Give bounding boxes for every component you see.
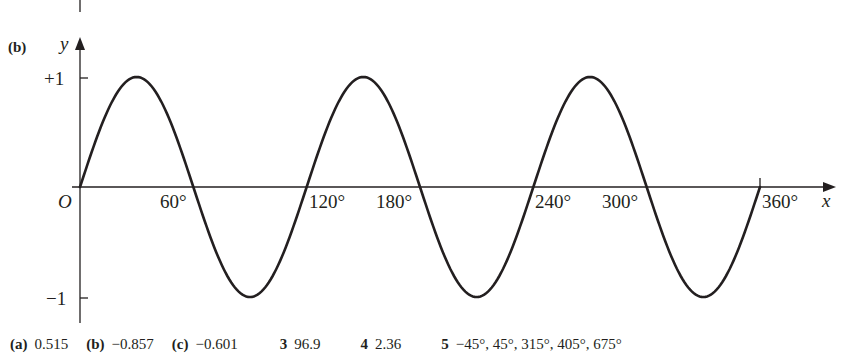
origin-label: O [58, 191, 72, 212]
answer-item: 4 2.36 [360, 336, 401, 353]
x-tick-label-300: 300° [602, 191, 638, 212]
x-tick-label-120: 120° [309, 191, 345, 212]
y-axis-label: y [58, 33, 69, 54]
answer-number: (b) [86, 336, 104, 353]
answer-number: 3 [280, 336, 288, 353]
y-tick-label-plus-1: +1 [44, 68, 64, 89]
y-tick-label-minus-1: −1 [46, 288, 66, 309]
answer-item: 3 96.9 [280, 336, 321, 353]
answer-value: −45°, 45°, 315°, 405°, 675° [456, 336, 622, 353]
x-tick-label-240: 240° [535, 191, 571, 212]
answer-number: (a) [10, 336, 28, 353]
answer-item: (c) −0.601 [172, 336, 238, 353]
answer-item: (a) 0.515 [10, 336, 68, 353]
answer-key-line: (a) 0.515 (b) −0.857 (c) −0.601 3 96.9 4… [10, 336, 622, 353]
part-label: (b) [8, 39, 26, 56]
answer-item: (b) −0.857 [86, 336, 154, 353]
answer-value: 96.9 [294, 336, 320, 353]
answer-number: (c) [172, 336, 189, 353]
answer-number: 5 [441, 336, 449, 353]
answer-value: 0.515 [35, 336, 69, 353]
sine-graph: (b) y x O +1 −1 60° 120° 180° 240° 300° … [0, 0, 850, 358]
answer-value: −0.601 [195, 336, 237, 353]
answer-item: 5 −45°, 45°, 315°, 405°, 675° [441, 336, 621, 353]
answer-value: −0.857 [112, 336, 154, 353]
x-tick-label-60: 60° [160, 191, 187, 212]
y-axis-arrow-icon [75, 37, 85, 50]
x-tick-label-180: 180° [376, 191, 412, 212]
x-tick-label-360: 360° [762, 191, 798, 212]
answer-value: 2.36 [375, 336, 401, 353]
answer-number: 4 [360, 336, 368, 353]
x-axis-label: x [821, 190, 831, 211]
